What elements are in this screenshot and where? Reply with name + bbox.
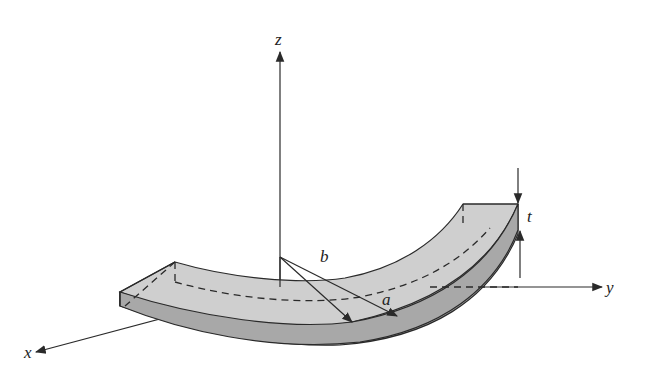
radius-a-label: a <box>382 290 391 309</box>
curved-bar-diagram: z y x a b t <box>0 0 645 381</box>
y-axis-label: y <box>604 278 614 297</box>
z-axis-label: z <box>274 30 282 49</box>
radius-b-label: b <box>320 247 329 266</box>
thickness-label: t <box>527 207 533 226</box>
x-axis-label: x <box>23 343 32 362</box>
